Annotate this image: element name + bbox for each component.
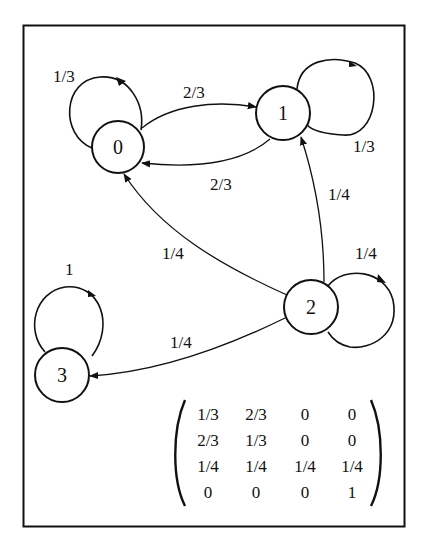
matrix-right-paren <box>371 400 381 506</box>
svg-text:0: 0 <box>252 483 261 502</box>
svg-text:1/4: 1/4 <box>294 457 316 476</box>
svg-text:0: 0 <box>348 431 357 450</box>
svg-text:2: 2 <box>306 296 316 318</box>
svg-text:0: 0 <box>301 405 310 424</box>
svg-text:1/3: 1/3 <box>245 431 267 450</box>
svg-text:1/4: 1/4 <box>245 457 267 476</box>
edge-0-to-1 <box>142 104 256 128</box>
svg-text:1: 1 <box>348 483 357 502</box>
svg-text:1/4: 1/4 <box>197 457 219 476</box>
state-node-3: 3 <box>35 348 89 402</box>
diagram-frame <box>24 26 405 527</box>
edge-label-1-1: 1/3 <box>353 137 375 156</box>
svg-text:1: 1 <box>278 102 288 124</box>
svg-text:0: 0 <box>301 483 310 502</box>
edge-label-2-3: 1/4 <box>170 333 192 352</box>
edge-label-1-0: 2/3 <box>210 175 232 194</box>
edge-label-2-0: 1/4 <box>162 244 184 263</box>
svg-text:1/3: 1/3 <box>197 405 219 424</box>
loop-arrowhead-3 <box>88 290 96 297</box>
svg-text:0: 0 <box>204 483 213 502</box>
svg-text:2/3: 2/3 <box>197 431 219 450</box>
transition-matrix: 1/3 2/3 0 0 2/3 1/3 0 0 1/4 1/4 1/4 1/4 … <box>175 400 381 506</box>
state-node-1: 1 <box>256 86 310 140</box>
state-node-0: 0 <box>92 121 144 173</box>
svg-text:0: 0 <box>348 405 357 424</box>
matrix-left-paren <box>175 400 185 506</box>
loop-arrowhead-2 <box>377 274 386 283</box>
svg-text:0: 0 <box>113 136 123 158</box>
edge-label-0-1: 2/3 <box>183 83 205 102</box>
svg-text:1/4: 1/4 <box>341 457 363 476</box>
edge-2-to-1 <box>301 137 324 282</box>
svg-text:0: 0 <box>301 431 310 450</box>
edge-label-3-3: 1 <box>65 260 74 279</box>
markov-chain-diagram: 0 1 2 3 1/3 2/3 2/3 1/3 1/4 1/4 1/4 1/4 … <box>0 0 428 553</box>
svg-text:2/3: 2/3 <box>245 405 267 424</box>
edge-2-to-0 <box>124 174 287 295</box>
edge-1-to-0 <box>142 139 270 165</box>
edge-label-0-0: 1/3 <box>53 67 75 86</box>
svg-text:3: 3 <box>57 364 67 386</box>
edge-label-2-1: 1/4 <box>328 185 350 204</box>
loop-edge-3-3 <box>35 287 103 356</box>
state-node-2: 2 <box>284 280 338 334</box>
edge-label-2-2: 1/4 <box>355 244 377 263</box>
